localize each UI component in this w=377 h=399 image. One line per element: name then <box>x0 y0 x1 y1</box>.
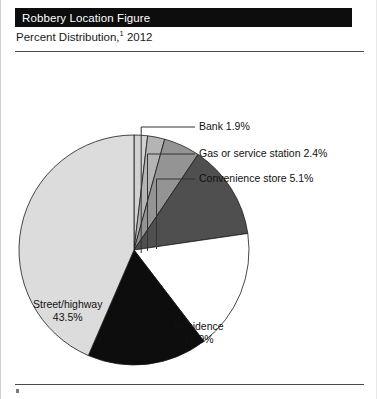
figure-page: Robbery Location Figure Percent Distribu… <box>0 0 377 399</box>
slice-label-miscellaneous: Miscellaneous 16.9% <box>102 385 169 399</box>
callout-label-convenience-store: Convenience store 5.1% <box>199 172 313 184</box>
slice-label-commercial-house: Commercial house 13.3% <box>169 248 230 274</box>
footnote-tick-mark <box>16 389 19 393</box>
callout-label-gas-or-service-station: Gas or service station 2.4% <box>199 147 327 159</box>
subtitle-year: 2012 <box>124 31 153 43</box>
slice-label-miscellaneous-name: Miscellaneous <box>102 385 169 397</box>
callout-label-bank: Bank 1.9% <box>199 120 250 132</box>
pie-chart: Bank 1.9% Gas or service station 2.4% Co… <box>1 55 377 380</box>
slice-label-commercial-house-line1: Commercial <box>172 248 228 260</box>
slice-label-commercial-house-line2: house 13.3% <box>169 261 230 274</box>
slice-label-residence: Residence 16.9% <box>174 320 224 346</box>
figure-title-bar: Robbery Location Figure <box>15 8 352 27</box>
subtitle-prefix: Percent Distribution, <box>16 31 120 43</box>
header-divider <box>15 51 364 52</box>
slice-label-street-highway-value: 43.5% <box>33 311 102 324</box>
figure-subtitle: Percent Distribution,1 2012 <box>16 31 153 43</box>
page-title: Robbery Location Figure <box>22 12 150 24</box>
slice-label-street-highway-name: Street/highway <box>33 298 102 310</box>
footer-divider <box>15 384 364 385</box>
slice-label-residence-name: Residence <box>174 320 224 332</box>
slice-label-street-highway: Street/highway 43.5% <box>33 298 102 324</box>
slice-label-residence-value: 16.9% <box>174 333 224 346</box>
